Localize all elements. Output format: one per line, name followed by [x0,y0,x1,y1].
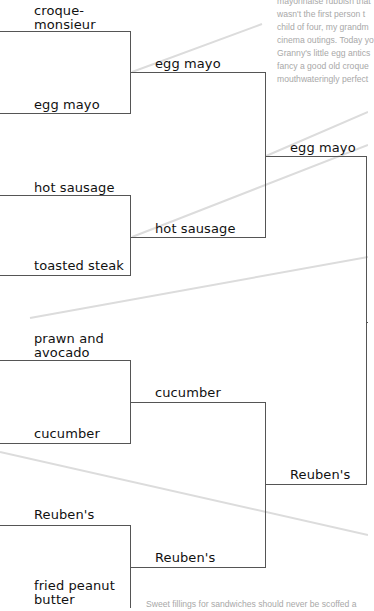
winner-label: Reuben's [155,550,215,565]
bracket-line [0,443,131,444]
note-line: Granny's little egg antics [277,47,370,60]
entrant-label: butter [34,592,75,607]
bracket-line [0,360,131,361]
note-line: cinema outings. Today yo [277,34,374,47]
winner-label: cucumber [155,385,221,400]
note-line: child of four, my grandm [277,21,369,34]
final-connector-tick [366,322,368,323]
bracket-line [0,113,131,114]
note-line: mayonnaise rubbish that [277,0,371,8]
entrant-label: cucumber [34,426,100,441]
winner-label: egg mayo [155,56,221,71]
entrant-label: avocado [34,345,90,360]
bracket-line [130,72,266,73]
note-line: wasn't the first person t [277,8,365,21]
bracket-line [366,156,367,485]
bracket-line [0,195,131,196]
entrant-label: croque- [34,3,84,18]
winner-label: hot sausage [155,221,236,236]
bracket-line [0,275,131,276]
bracket-line [265,484,367,485]
winner-label: egg mayo [290,140,356,155]
note-line: fancy a good old croque [277,60,369,73]
annotation-paragraph-bottom: Sweet fillings for sandwiches should nev… [146,598,357,611]
winner-label: Reuben's [290,467,350,482]
entrant-label: egg mayo [34,97,100,112]
bracket-line [0,525,131,526]
entrant-label: fried peanut [34,578,115,593]
bracket-line [130,567,266,568]
entrant-label: monsieur [34,17,96,32]
bracket-line [130,195,131,276]
entrant-label: hot sausage [34,180,115,195]
bracket-line [130,402,266,403]
bracket-line [265,156,367,157]
guide-line [0,452,368,535]
entrant-label: prawn and [34,331,104,346]
bracket-line [130,237,266,238]
bracket-line [265,402,266,568]
entrant-label: toasted steak [34,258,124,273]
bracket-line [0,31,131,32]
bracket-line [265,72,266,238]
note-line: mouthwateringly perfect [277,73,368,86]
entrant-label: Reuben's [34,507,94,522]
